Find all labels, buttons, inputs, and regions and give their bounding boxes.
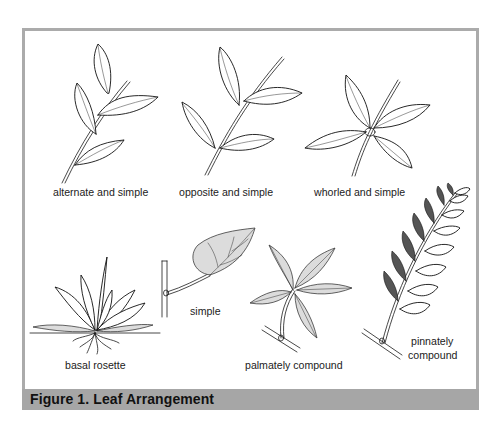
label-pinnately: pinnately xyxy=(411,335,453,347)
figure-caption: Figure 1. Leaf Arrangement xyxy=(30,391,214,407)
figure-caption-bar: Figure 1. Leaf Arrangement xyxy=(22,389,479,410)
whorled-leaf-arrangement-icon xyxy=(300,70,440,180)
label-compound: compound xyxy=(408,349,457,361)
opposite-leaf-arrangement-icon xyxy=(170,35,310,185)
alternate-leaf-arrangement-icon xyxy=(40,35,170,185)
label-palmately-compound: palmately compound xyxy=(245,359,343,371)
basal-rosette-icon xyxy=(25,255,165,355)
label-opposite-and-simple: opposite and simple xyxy=(179,186,273,198)
label-basal-rosette: basal rosette xyxy=(65,359,126,371)
label-simple: simple xyxy=(190,305,221,317)
palmately-compound-leaf-icon xyxy=(245,240,360,355)
label-alternate-and-simple: alternate and simple xyxy=(53,186,148,198)
